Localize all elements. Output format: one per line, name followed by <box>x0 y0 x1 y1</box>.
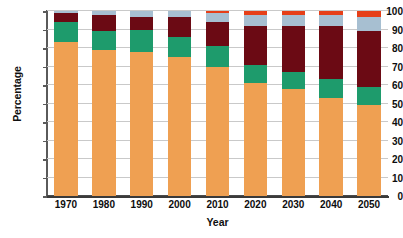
bar-segment-series-2[interactable] <box>168 37 191 57</box>
x-axis-title: Year <box>47 216 388 228</box>
bar-stack <box>168 11 191 196</box>
bar-group[interactable] <box>54 11 77 196</box>
bar-stack <box>357 11 380 196</box>
bar-segment-series-2[interactable] <box>319 79 342 98</box>
bar-segment-series-4[interactable] <box>282 15 305 26</box>
bars-layer <box>47 11 388 196</box>
bar-segment-series-3[interactable] <box>130 17 153 30</box>
bar-segment-series-2[interactable] <box>206 46 229 66</box>
bar-segment-series-4[interactable] <box>244 15 267 26</box>
y-tick-mark-0 <box>43 196 47 198</box>
bar-segment-series-1[interactable] <box>244 83 267 196</box>
x-tick-label-2030: 2030 <box>282 199 304 210</box>
bar-segment-series-2[interactable] <box>130 30 153 52</box>
bar-stack <box>92 11 115 196</box>
bar-segment-series-1[interactable] <box>357 105 380 196</box>
x-tick-label-2040: 2040 <box>320 199 342 210</box>
bar-group[interactable] <box>244 11 267 196</box>
bar-stack <box>282 11 305 196</box>
x-tick-label-1980: 1980 <box>93 199 115 210</box>
x-tick-label-2010: 2010 <box>206 199 228 210</box>
x-tick-label-1970: 1970 <box>55 199 77 210</box>
plot-area <box>47 11 388 196</box>
bar-segment-series-1[interactable] <box>92 50 115 196</box>
bar-group[interactable] <box>168 11 191 196</box>
bar-group[interactable] <box>206 11 229 196</box>
bar-segment-series-1[interactable] <box>206 67 229 197</box>
bar-segment-series-3[interactable] <box>282 26 305 72</box>
bar-segment-series-1[interactable] <box>54 42 77 196</box>
bar-segment-series-3[interactable] <box>357 31 380 87</box>
bar-segment-series-1[interactable] <box>282 89 305 196</box>
bar-segment-series-2[interactable] <box>92 31 115 50</box>
x-tick-label-2050: 2050 <box>358 199 380 210</box>
bar-segment-series-4[interactable] <box>357 17 380 32</box>
bar-segment-series-3[interactable] <box>319 26 342 80</box>
bar-group[interactable] <box>282 11 305 196</box>
bar-segment-series-2[interactable] <box>357 87 380 106</box>
bar-stack <box>244 11 267 196</box>
bar-group[interactable] <box>130 11 153 196</box>
x-axis-line <box>46 196 389 198</box>
bar-group[interactable] <box>92 11 115 196</box>
bar-segment-series-4[interactable] <box>206 13 229 22</box>
bar-stack <box>54 11 77 196</box>
bar-segment-series-2[interactable] <box>244 65 267 84</box>
bar-stack <box>319 11 342 196</box>
bar-segment-series-4[interactable] <box>319 15 342 26</box>
bar-segment-series-3[interactable] <box>168 17 191 37</box>
bar-segment-series-3[interactable] <box>244 26 267 65</box>
bar-segment-series-1[interactable] <box>319 98 342 196</box>
bar-segment-series-1[interactable] <box>130 52 153 196</box>
x-tick-label-1990: 1990 <box>131 199 153 210</box>
bar-stack <box>130 11 153 196</box>
bar-segment-series-1[interactable] <box>168 57 191 196</box>
bar-segment-series-3[interactable] <box>92 15 115 32</box>
x-tick-label-2020: 2020 <box>244 199 266 210</box>
x-tick-label-2000: 2000 <box>168 199 190 210</box>
bar-segment-series-2[interactable] <box>282 72 305 89</box>
bar-stack <box>206 11 229 196</box>
bar-segment-series-3[interactable] <box>206 22 229 46</box>
bar-group[interactable] <box>357 11 380 196</box>
bar-segment-series-3[interactable] <box>54 13 77 22</box>
bar-group[interactable] <box>319 11 342 196</box>
y-axis-title: Percentage <box>11 39 23 149</box>
stacked-bar-chart: Percentage 0102030405060708090100 197019… <box>0 0 403 238</box>
bar-segment-series-2[interactable] <box>54 22 77 42</box>
